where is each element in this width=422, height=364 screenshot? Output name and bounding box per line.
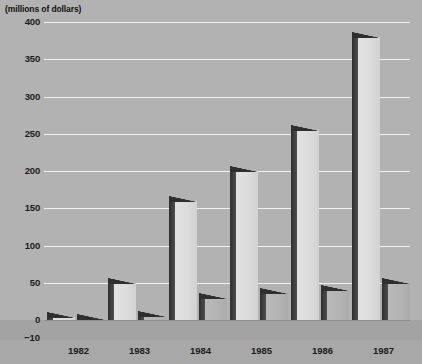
y-axis-tick-label: 100 — [0, 240, 40, 251]
bar-front-face — [114, 283, 136, 320]
y-axis-tick-label: 200 — [0, 165, 40, 176]
x-axis-tick-label: 1983 — [110, 345, 170, 356]
y-axis-tick-label: 150 — [0, 202, 40, 213]
bar — [388, 283, 410, 320]
x-axis-tick-label: 1984 — [171, 345, 231, 356]
y-axis-tick-label: 350 — [0, 53, 40, 64]
bar-front-face — [327, 290, 349, 320]
bar — [144, 316, 166, 320]
bar-front-face — [236, 171, 258, 320]
bar — [175, 201, 197, 320]
bar — [114, 283, 136, 320]
chart-title: (millions of dollars) — [5, 4, 81, 14]
y-axis-tick-label: 0 — [0, 314, 40, 325]
axis-baseline — [44, 320, 410, 321]
bar-top-face — [321, 285, 349, 291]
bar-front-face — [388, 283, 410, 320]
bar-chart: (millions of dollars) 400350300250200150… — [0, 0, 422, 364]
bar — [236, 171, 258, 320]
gridline — [44, 22, 410, 23]
bar — [205, 298, 227, 320]
bar-top-face — [47, 312, 75, 318]
y-axis-tick-label: 50 — [0, 277, 40, 288]
chart-floor-band — [0, 320, 422, 340]
bar-top-face — [291, 125, 319, 131]
bar-top-face — [230, 166, 258, 172]
y-axis-negative-tick: −10 — [4, 332, 40, 343]
bar-front-face — [358, 37, 380, 320]
y-axis-tick-label: 250 — [0, 128, 40, 139]
bar-top-face — [108, 278, 136, 284]
x-axis-tick-label: 1986 — [293, 345, 353, 356]
bar-top-face — [169, 196, 197, 202]
bar — [83, 319, 105, 320]
x-axis-tick-label: 1985 — [232, 345, 292, 356]
x-axis-tick-label: 1987 — [354, 345, 414, 356]
bar-front-face — [175, 201, 197, 320]
bar — [266, 293, 288, 320]
bar — [53, 317, 75, 320]
bar-top-face — [260, 288, 288, 294]
y-axis-tick-label: 400 — [0, 16, 40, 27]
bar-top-face — [199, 293, 227, 299]
bar-top-face — [382, 278, 410, 284]
bar — [327, 290, 349, 320]
bar-front-face — [205, 298, 227, 320]
x-axis-tick-label: 1982 — [49, 345, 109, 356]
bar-front-face — [297, 130, 319, 320]
bar-top-face — [352, 32, 380, 38]
bar-top-face — [138, 311, 166, 317]
y-axis-tick-label: 300 — [0, 91, 40, 102]
bar — [358, 37, 380, 320]
bar-front-face — [266, 293, 288, 320]
bar — [297, 130, 319, 320]
bar-top-face — [77, 314, 105, 320]
